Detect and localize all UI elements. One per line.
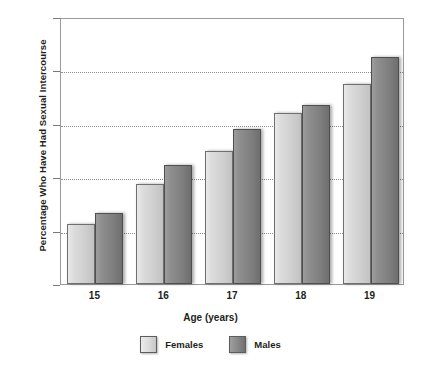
y-tick-mark: [53, 178, 60, 179]
bar-males-17: [233, 129, 261, 284]
y-tick-mark: [53, 285, 60, 286]
y-axis-title: Percentage Who Have Had Sexual Intercour…: [37, 16, 48, 276]
legend-item-females: Females: [140, 336, 203, 353]
y-tick-mark: [53, 18, 60, 19]
bar-females-18: [274, 113, 302, 284]
bar-group: [61, 19, 130, 284]
y-tick-mark: [53, 125, 60, 126]
bar-females-16: [136, 184, 164, 284]
bar-females-17: [205, 151, 233, 285]
y-tick-mark: [53, 71, 60, 72]
bar-group: [130, 19, 199, 284]
bar-females-15: [67, 224, 95, 284]
bar-males-16: [164, 165, 192, 284]
chart-legend: FemalesMales: [0, 336, 421, 353]
x-tick-label: 19: [330, 290, 410, 301]
bar-males-18: [302, 105, 330, 284]
bar-males-19: [371, 57, 399, 284]
x-axis-title: Age (years): [0, 312, 421, 323]
legend-label: Males: [254, 339, 280, 350]
bar-group: [267, 19, 336, 284]
bar-chart: Percentage Who Have Had Sexual Intercour…: [0, 0, 421, 367]
legend-swatch-females: [140, 336, 157, 353]
y-tick-mark: [53, 232, 60, 233]
bar-males-15: [95, 213, 123, 284]
legend-swatch-males: [229, 336, 246, 353]
bar-group: [336, 19, 405, 284]
bar-females-19: [343, 84, 371, 284]
legend-item-males: Males: [229, 336, 280, 353]
bar-group: [199, 19, 268, 284]
plot-area: [60, 18, 404, 285]
legend-label: Females: [165, 339, 203, 350]
